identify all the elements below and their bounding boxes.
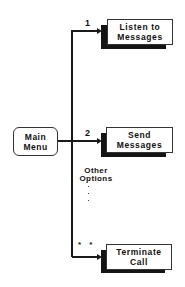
listen-messages-label-line2: Messages: [117, 32, 162, 42]
branch-terminate-connector: [72, 256, 98, 258]
ellipsis-dot-2: [88, 193, 89, 194]
root-connector: [57, 140, 72, 142]
main-menu-label-line1: Main: [25, 132, 46, 142]
option-2-key: 2: [85, 128, 90, 138]
terminate-call-label-line2: Call: [130, 257, 148, 267]
ellipsis-dot-3: [88, 200, 89, 201]
send-messages-node[interactable]: Send Messages: [106, 127, 173, 153]
listen-messages-node[interactable]: Listen to Messages: [107, 19, 173, 45]
other-options-line2: Options: [79, 175, 113, 183]
branch-2-connector: [72, 140, 98, 142]
branch-1-connector: [72, 30, 98, 32]
other-options-label: Other Options: [79, 167, 113, 183]
ellipsis-dot-1: [88, 186, 89, 187]
listen-messages-label-line1: Listen to: [120, 22, 161, 32]
terminate-call-label-line1: Terminate: [116, 247, 161, 257]
option-1-key: 1: [85, 18, 90, 28]
trunk-connector: [71, 30, 73, 257]
send-messages-label-line2: Messages: [117, 140, 162, 150]
main-menu-node[interactable]: Main Menu: [13, 127, 58, 156]
terminate-call-node[interactable]: Terminate Call: [106, 244, 172, 270]
main-menu-label-line2: Menu: [23, 142, 47, 152]
option-terminate-key: * *: [78, 240, 95, 250]
send-messages-label-line1: Send: [128, 130, 151, 140]
